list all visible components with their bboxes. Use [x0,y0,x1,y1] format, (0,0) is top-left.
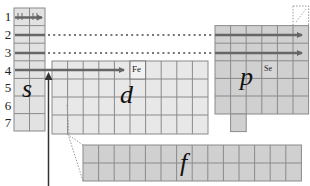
element-se-label: Se [264,65,272,73]
p-block [215,26,309,132]
p-block-letter: p [240,64,253,90]
periodic-table-diagram: 1 2 3 4 5 6 7 [0,0,310,186]
s-block-letter: s [22,76,32,102]
diagram-graphics [0,0,310,186]
f-block-letter: f [180,150,187,176]
f-block [83,145,301,181]
he-dashed-cell [293,6,309,26]
element-fe-label: Fe [132,65,141,74]
d-block-letter: d [120,82,133,108]
